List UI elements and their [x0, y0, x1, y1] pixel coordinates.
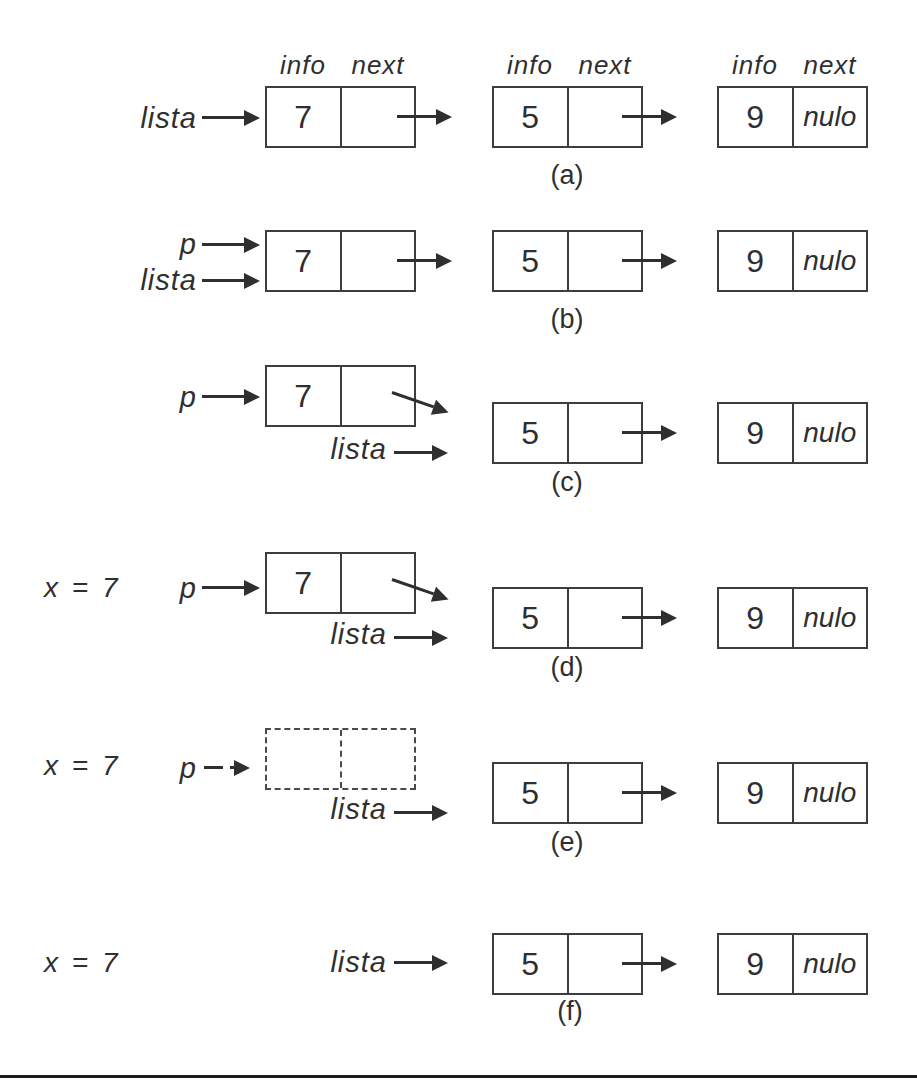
next-cell: [342, 730, 415, 788]
next-cell: nulo: [794, 589, 867, 647]
list-node-9: 9 nulo: [717, 933, 868, 995]
list-node-5: 5: [492, 230, 643, 292]
next-field-arrow: [622, 616, 661, 619]
info-cell: 7: [267, 367, 342, 425]
lista-pointer-arrow: [394, 636, 432, 639]
next-cell: nulo: [794, 935, 867, 993]
next-field-arrow: [397, 259, 436, 262]
info-cell: 7: [267, 232, 342, 290]
node-value: 7: [294, 378, 312, 415]
next-field-arrow: [622, 791, 661, 794]
lista-pointer-arrow: [394, 811, 432, 814]
list-node-9: 9 nulo: [717, 402, 868, 464]
column-header-next: next: [351, 52, 404, 79]
column-header-info: info: [732, 52, 778, 79]
subfigure-caption-f: (f): [557, 997, 582, 1025]
list-node-5: 5: [492, 86, 643, 148]
p-pointer-arrow: [202, 586, 244, 589]
node-value: 5: [521, 775, 539, 812]
node-value: 9: [746, 99, 764, 136]
subfigure-caption-b: (b): [551, 305, 584, 333]
null-label: nulo: [803, 245, 856, 277]
info-cell: 7: [267, 88, 342, 146]
node-value: 5: [521, 99, 539, 136]
subfigure-caption-c: (c): [551, 468, 582, 496]
next-cell: nulo: [794, 88, 867, 146]
next-cell: nulo: [794, 404, 867, 462]
info-cell: 5: [494, 404, 569, 462]
null-label: nulo: [803, 602, 856, 634]
next-field-arrow: [397, 115, 436, 118]
next-field-arrow: [622, 962, 661, 965]
lista-pointer-label: lista: [307, 619, 387, 649]
node-value: 5: [521, 946, 539, 983]
lista-pointer-arrow: [394, 451, 432, 454]
bottom-page-rule: [0, 1075, 917, 1078]
lista-pointer-label: lista: [117, 265, 197, 295]
x-assignment-label: x = 7: [44, 948, 120, 977]
p-pointer-label: p: [117, 753, 197, 783]
null-label: nulo: [803, 948, 856, 980]
column-header-info: info: [280, 52, 326, 79]
list-node-9: 9 nulo: [717, 762, 868, 824]
list-node-9: 9 nulo: [717, 86, 868, 148]
info-cell: [267, 730, 342, 788]
lista-pointer-label: lista: [117, 103, 197, 133]
lista-pointer-arrow: [394, 961, 432, 964]
null-label: nulo: [803, 417, 856, 449]
p-pointer-label: p: [117, 382, 197, 412]
p-pointer-arrow-dashed: [204, 766, 234, 769]
info-cell: 5: [494, 764, 569, 822]
info-cell: 5: [494, 88, 569, 146]
column-header-next: next: [803, 52, 856, 79]
node-value: 9: [746, 600, 764, 637]
subfigure-caption-e: (e): [551, 828, 584, 856]
figure-canvas: info next info next info next lista 7 5 …: [0, 0, 917, 1090]
list-node-7: 7: [265, 552, 416, 614]
freed-node-dashed: [265, 728, 416, 790]
lista-pointer-label: lista: [307, 794, 387, 824]
p-pointer-arrow: [202, 395, 244, 398]
p-pointer-label: p: [117, 229, 197, 259]
x-assignment-label: x = 7: [44, 573, 120, 602]
subfigure-caption-a: (a): [551, 161, 584, 189]
info-cell: 5: [494, 589, 569, 647]
column-header-info: info: [507, 52, 553, 79]
column-header-next: next: [578, 52, 631, 79]
p-pointer-label: p: [117, 573, 197, 603]
list-node-9: 9 nulo: [717, 230, 868, 292]
next-cell: nulo: [794, 232, 867, 290]
node-value: 5: [521, 243, 539, 280]
info-cell: 9: [719, 589, 794, 647]
null-label: nulo: [803, 777, 856, 809]
lista-pointer-arrow: [202, 279, 244, 282]
node-value: 9: [746, 775, 764, 812]
list-node-7: 7: [265, 230, 416, 292]
lista-pointer-arrow: [202, 116, 244, 119]
node-value: 7: [294, 243, 312, 280]
lista-pointer-label: lista: [307, 947, 387, 977]
node-value: 9: [746, 415, 764, 452]
lista-pointer-label: lista: [307, 434, 387, 464]
node-value: 7: [294, 99, 312, 136]
subfigure-caption-d: (d): [551, 653, 584, 681]
info-cell: 9: [719, 764, 794, 822]
list-node-5: 5: [492, 933, 643, 995]
next-cell: nulo: [794, 764, 867, 822]
node-value: 5: [521, 415, 539, 452]
list-node-7: 7: [265, 365, 416, 427]
list-node-9: 9 nulo: [717, 587, 868, 649]
null-label: nulo: [803, 101, 856, 133]
list-node-7: 7: [265, 86, 416, 148]
list-node-5: 5: [492, 762, 643, 824]
next-field-arrow: [622, 115, 661, 118]
node-value: 7: [294, 565, 312, 602]
next-field-arrow: [622, 259, 661, 262]
info-cell: 9: [719, 88, 794, 146]
info-cell: 5: [494, 935, 569, 993]
node-value: 9: [746, 946, 764, 983]
list-node-5: 5: [492, 402, 643, 464]
info-cell: 9: [719, 232, 794, 290]
next-field-arrow: [622, 431, 661, 434]
x-assignment-label: x = 7: [44, 751, 120, 780]
